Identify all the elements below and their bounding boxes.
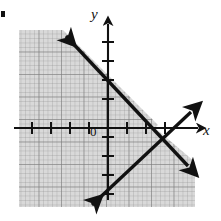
- y-axis: [102, 24, 114, 200]
- graph-figure: y x 0: [0, 0, 221, 221]
- y-axis-label: y: [91, 6, 98, 23]
- descending-boundary-line: [66, 36, 188, 166]
- x-axis-label: x: [203, 122, 210, 139]
- origin-label: 0: [90, 124, 97, 140]
- ascending-boundary-line: [92, 112, 191, 205]
- axes-and-lines: [0, 0, 221, 221]
